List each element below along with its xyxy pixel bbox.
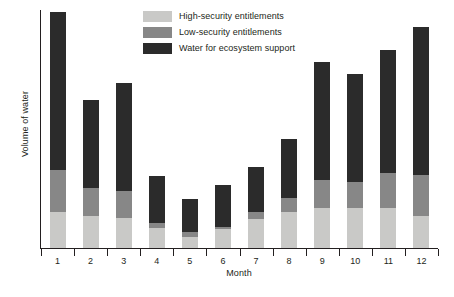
bar-segment [182,237,198,248]
chart-figure: Volume of water 123456789101112 Month Hi… [0,0,454,297]
bar-slot [405,10,438,248]
bar-segment [116,83,132,191]
x-tick-mark [41,249,42,256]
x-tick-mark [140,249,141,256]
stacked-bar[interactable] [149,176,165,248]
bar-segment [83,100,99,188]
legend-label-low-security: Low-security entitlements [179,27,282,38]
bar-segment [281,198,297,212]
bar-segment [116,191,132,218]
bar-segment [116,218,132,248]
x-tick-mark [240,249,241,256]
legend-swatch-high-security [143,11,172,22]
bar-slot [41,10,74,248]
bar-segment [380,173,396,208]
x-tick-mark [438,249,439,256]
bar-segment [50,212,66,248]
bar-segment [50,170,66,212]
bar-segment [347,182,363,208]
bar-slot [74,10,107,248]
x-tick-label: 3 [109,256,139,266]
bar-slot [306,10,339,248]
stacked-bar[interactable] [116,83,132,248]
stacked-bar[interactable] [413,27,429,248]
x-tick-mark [74,249,75,256]
bar-segment [83,216,99,248]
stacked-bar[interactable] [83,100,99,248]
bar-segment [281,139,297,198]
x-tick-label: 8 [274,256,304,266]
legend-swatch-ecosystem [143,43,172,54]
x-tick-mark [206,249,207,256]
bar-segment [380,50,396,173]
legend-item-high-security: High-security entitlements [143,11,295,22]
x-tick-mark [107,249,108,256]
bar-segment [314,62,330,180]
bar-slot [372,10,405,248]
x-tick-label: 11 [373,256,403,266]
bar-segment [380,208,396,248]
bar-segment [281,212,297,248]
stacked-bar[interactable] [248,167,264,248]
bar-segment [248,167,264,212]
x-tick-label: 6 [208,256,238,266]
x-tick-label: 2 [76,256,106,266]
bar-segment [347,74,363,182]
bar-segment [413,27,429,175]
bar-segment [248,212,264,219]
x-tick-mark [405,249,406,256]
x-tick-label: 1 [43,256,73,266]
bar-slot [107,10,140,248]
bar-segment [413,216,429,248]
x-tick-mark [339,249,340,256]
stacked-bar[interactable] [347,74,363,248]
bar-segment [248,219,264,248]
x-tick-label: 4 [142,256,172,266]
bar-segment [347,208,363,248]
legend-label-ecosystem: Water for ecosystem support [179,43,295,54]
bar-segment [413,175,429,216]
x-tick-label: 9 [307,256,337,266]
bar-segment [314,208,330,248]
stacked-bar[interactable] [182,199,198,248]
x-tick-mark [372,249,373,256]
stacked-bar[interactable] [281,139,297,248]
bar-segment [215,229,231,248]
x-tick-label: 5 [175,256,205,266]
bar-segment [149,176,165,223]
stacked-bar[interactable] [314,62,330,248]
bar-segment [50,12,66,170]
stacked-bar[interactable] [215,185,231,248]
bar-segment [83,188,99,216]
bar-segment [314,180,330,208]
stacked-bar[interactable] [50,12,66,248]
bar-slot [339,10,372,248]
x-tick-label: 7 [241,256,271,266]
bar-segment [182,199,198,232]
bar-segment [215,185,231,227]
legend-label-high-security: High-security entitlements [179,11,284,22]
x-tick-mark [273,249,274,256]
legend-swatch-low-security [143,27,172,38]
legend-item-low-security: Low-security entitlements [143,27,295,38]
x-tick-label: 10 [340,256,370,266]
x-tick-mark [173,249,174,256]
chart-legend: High-security entitlements Low-security … [143,11,295,54]
x-tick-label: 12 [406,256,436,266]
y-axis-title: Volume of water [14,0,36,248]
x-axis-title: Month [40,268,438,278]
stacked-bar[interactable] [380,50,396,248]
legend-item-ecosystem: Water for ecosystem support [143,43,295,54]
x-tick-mark [306,249,307,256]
bar-segment [149,228,165,248]
